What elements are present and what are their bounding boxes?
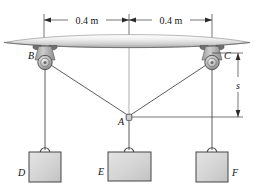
label-block-d: D bbox=[17, 167, 26, 178]
dimension-label-left: 0.4 m bbox=[76, 15, 99, 26]
block-d bbox=[29, 148, 61, 182]
block-f bbox=[196, 148, 228, 182]
statics-figure: 0.4 m 0.4 m B C bbox=[0, 0, 254, 193]
block-e bbox=[108, 148, 151, 181]
ring-a bbox=[126, 114, 132, 120]
arrow-s-top bbox=[236, 53, 241, 60]
arrow-right-outer bbox=[205, 18, 212, 23]
cable-group bbox=[45, 65, 212, 150]
arrow-left-inner bbox=[122, 18, 129, 23]
label-block-f: F bbox=[231, 167, 239, 178]
label-pulley-b: B bbox=[28, 50, 34, 61]
block-d-body bbox=[29, 152, 61, 182]
arrow-right-inner bbox=[129, 18, 136, 23]
pulley-b-axle bbox=[44, 61, 47, 64]
label-ring-a: A bbox=[117, 116, 125, 127]
pulley-c-axle bbox=[211, 61, 214, 64]
cable-c-to-a bbox=[129, 65, 206, 116]
dimension-label-s: s bbox=[236, 80, 240, 91]
pulley-b bbox=[33, 46, 57, 70]
block-f-body bbox=[196, 152, 228, 182]
arrow-s-bottom bbox=[236, 110, 241, 117]
block-e-body bbox=[108, 152, 151, 181]
dimension-label-right: 0.4 m bbox=[160, 15, 183, 26]
label-block-e: E bbox=[97, 166, 104, 177]
pulley-c bbox=[200, 46, 224, 70]
ring-a-connector bbox=[126, 114, 132, 120]
arrow-left-outer bbox=[44, 18, 51, 23]
figure-canvas: 0.4 m 0.4 m B C bbox=[0, 0, 254, 193]
dimension-group-vertical bbox=[132, 53, 243, 117]
label-pulley-c: C bbox=[224, 50, 231, 61]
cable-b-to-a bbox=[51, 65, 129, 116]
